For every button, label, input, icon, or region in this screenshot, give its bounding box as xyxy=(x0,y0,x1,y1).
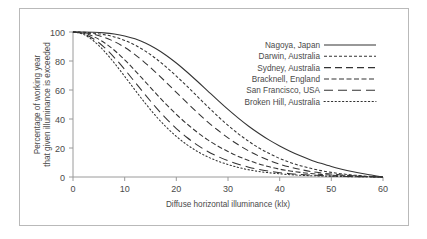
curve-nagoya-japan xyxy=(73,32,383,177)
y-tick-marks xyxy=(69,32,73,177)
curve-broken-hill-australia xyxy=(73,32,383,177)
x-tick-label: 0 xyxy=(70,184,75,194)
x-tick-marks xyxy=(73,177,383,181)
curve-darwin-australia xyxy=(73,32,383,177)
x-axis-tick-labels: 0 10 20 30 40 50 60 xyxy=(70,184,388,194)
curve-san-francisco-usa xyxy=(73,32,383,177)
y-axis-title-line2: that given illuminance is exceeded xyxy=(43,42,52,167)
x-tick-label: 60 xyxy=(378,184,388,194)
y-tick-label: 20 xyxy=(55,144,65,154)
x-axis-title: Diffuse horizontal illuminance (klx) xyxy=(166,200,290,209)
axis-lines xyxy=(73,32,383,177)
x-tick-label: 20 xyxy=(171,184,181,194)
data-curves xyxy=(73,32,383,177)
chart-legend: Nagoya, JapanDarwin, AustraliaSydney, Au… xyxy=(244,41,376,107)
y-tick-label: 40 xyxy=(55,115,65,125)
legend-label: San Francisco, USA xyxy=(246,86,320,95)
y-tick-label: 80 xyxy=(55,57,65,67)
figure-border: 100 80 60 40 20 0 0 10 20 30 40 50 60 Di… xyxy=(19,8,409,226)
y-axis-title: Percentage of working year that given il… xyxy=(33,42,52,167)
curve-sydney-australia xyxy=(73,32,383,177)
y-axis-title-line1: Percentage of working year xyxy=(33,54,42,154)
curve-bracknell-england xyxy=(73,32,383,177)
legend-label: Nagoya, Japan xyxy=(265,41,321,50)
x-tick-label: 30 xyxy=(223,184,233,194)
line-chart: 100 80 60 40 20 0 0 10 20 30 40 50 60 Di… xyxy=(20,9,408,225)
x-tick-label: 10 xyxy=(120,184,130,194)
axes xyxy=(73,32,383,177)
legend-label: Bracknell, England xyxy=(252,75,321,84)
x-tick-label: 40 xyxy=(275,184,285,194)
y-tick-label: 60 xyxy=(55,86,65,96)
y-tick-label: 0 xyxy=(60,173,65,183)
x-tick-label: 50 xyxy=(326,184,336,194)
legend-label: Broken Hill, Australia xyxy=(244,98,320,107)
legend-label: Darwin, Australia xyxy=(259,52,321,61)
legend-label: Sydney, Australia xyxy=(257,64,320,73)
y-axis-tick-labels: 100 80 60 40 20 0 xyxy=(50,28,65,183)
figure-container: 100 80 60 40 20 0 0 10 20 30 40 50 60 Di… xyxy=(0,0,427,239)
y-tick-label: 100 xyxy=(50,28,65,38)
